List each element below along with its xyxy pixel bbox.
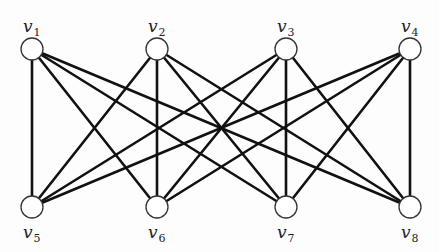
node-label: v8 — [401, 222, 419, 245]
edges-group — [32, 49, 410, 207]
bipartite-graph: v1v2v3v4v5v6v7v8 — [0, 0, 439, 252]
node-label: v3 — [277, 16, 295, 39]
node-circle — [275, 196, 297, 218]
node-circle — [21, 38, 43, 60]
node-v7: v7 — [275, 196, 297, 245]
node-label: v1 — [23, 16, 41, 39]
node-circle — [146, 38, 168, 60]
node-circle — [399, 196, 421, 218]
node-circle — [21, 196, 43, 218]
node-circle — [275, 38, 297, 60]
node-v2: v2 — [146, 16, 168, 60]
node-v1: v1 — [21, 16, 43, 60]
node-v4: v4 — [399, 16, 421, 60]
node-label: v2 — [148, 16, 166, 39]
node-circle — [399, 38, 421, 60]
node-label: v4 — [401, 16, 419, 39]
node-v8: v8 — [399, 196, 421, 245]
node-v5: v5 — [21, 196, 43, 245]
node-label: v6 — [148, 222, 166, 245]
node-v3: v3 — [275, 16, 297, 60]
node-label: v5 — [23, 222, 41, 245]
node-circle — [146, 196, 168, 218]
node-label: v7 — [277, 222, 295, 245]
node-v6: v6 — [146, 196, 168, 245]
